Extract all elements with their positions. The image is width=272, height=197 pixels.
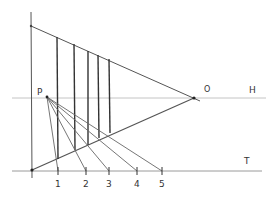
vanishing-point-label: O	[204, 86, 210, 94]
point-p-dot	[46, 96, 49, 99]
tick-label-3: 3	[106, 180, 112, 189]
tick-label-4: 4	[134, 180, 140, 189]
rays-from-point	[47, 97, 162, 171]
top-left-dot	[30, 25, 32, 27]
origin-dot	[30, 168, 33, 171]
perspective-diagram	[0, 0, 272, 197]
horizon-label: H	[249, 86, 256, 95]
tick-label-5: 5	[159, 180, 165, 189]
vanishing-point-dot	[192, 96, 195, 99]
ground-label: T	[244, 157, 250, 166]
point-p-label: P	[37, 88, 42, 97]
tick-label-2: 2	[83, 180, 89, 189]
left-vertical	[31, 12, 32, 178]
tick-label-1: 1	[55, 180, 61, 189]
